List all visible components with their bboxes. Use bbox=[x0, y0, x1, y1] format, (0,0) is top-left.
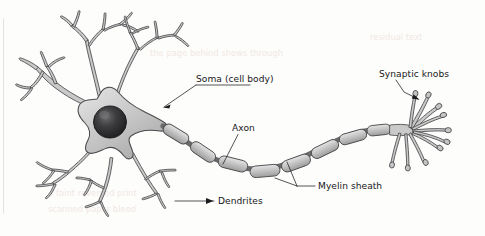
myelin-segment bbox=[367, 124, 392, 137]
ghost-text: faint reversed print bbox=[56, 188, 138, 198]
label-soma: Soma (cell body) bbox=[196, 74, 274, 84]
dendrite-branch bbox=[176, 36, 189, 46]
leader-soma bbox=[164, 85, 250, 107]
nucleus-highlight bbox=[99, 111, 109, 119]
dendrite-branch bbox=[174, 22, 183, 36]
myelin-segment bbox=[280, 152, 312, 173]
dendrite-branch bbox=[88, 28, 104, 46]
label-soma-group: Soma (cell body) bbox=[163, 74, 273, 109]
dendrite-branch bbox=[48, 57, 65, 67]
ghost-text: the page behind shows through bbox=[150, 48, 283, 58]
myelin-segment bbox=[188, 140, 217, 165]
neuron-diagram: the page behind shows through faint reve… bbox=[0, 0, 485, 236]
synaptic-knob bbox=[405, 165, 411, 171]
dendrite-branch bbox=[29, 71, 44, 89]
dendrite-branch bbox=[116, 47, 140, 96]
dendrite-branch bbox=[76, 177, 90, 181]
dendrite-branch bbox=[20, 88, 32, 101]
dendrite-branch bbox=[154, 21, 158, 38]
figure-canvas: the page behind shows through faint reve… bbox=[0, 0, 485, 236]
nucleus bbox=[94, 106, 127, 138]
myelin-segment bbox=[250, 164, 281, 178]
dendrite-branch bbox=[158, 34, 176, 39]
myelin-segment bbox=[217, 155, 249, 174]
synaptic-knob bbox=[389, 162, 395, 169]
ghost-text: residual text bbox=[370, 32, 423, 42]
label-dendrites-group: Dendrites bbox=[175, 196, 263, 206]
dendrite-branch bbox=[19, 58, 38, 70]
terminal-branch bbox=[405, 134, 409, 168]
dendrite-branch bbox=[104, 23, 122, 31]
label-myelin: Myelin sheath bbox=[318, 181, 382, 191]
synaptic-knob bbox=[443, 138, 451, 145]
dendrite-branch bbox=[40, 51, 48, 66]
synaptic-knob bbox=[440, 112, 448, 119]
dendrite-branch bbox=[102, 13, 106, 30]
leader-dendrites-arrowhead bbox=[206, 198, 214, 204]
dendrite-branch bbox=[73, 11, 80, 27]
dendrite-branch bbox=[16, 84, 31, 89]
synaptic-knob bbox=[445, 128, 451, 133]
dendrite-branch bbox=[142, 193, 157, 200]
label-synaptic-knobs-group: Synaptic knobs bbox=[379, 69, 449, 100]
myelin-segment bbox=[310, 138, 341, 161]
dendrite-branch bbox=[36, 162, 52, 171]
label-synaptic-knobs: Synaptic knobs bbox=[379, 69, 449, 79]
dendrite-branch bbox=[85, 38, 101, 98]
dendrite-branch bbox=[160, 169, 177, 172]
dendrite-branch bbox=[71, 25, 88, 42]
axon-with-myelin bbox=[161, 122, 392, 178]
dendrite-branch bbox=[161, 173, 170, 188]
soma bbox=[78, 87, 167, 159]
myelin-segment bbox=[338, 128, 368, 146]
dendrite-branch bbox=[145, 170, 161, 180]
dendrite-branch bbox=[60, 16, 73, 26]
myelin-segment bbox=[161, 122, 191, 146]
dendrite-branch bbox=[157, 194, 166, 209]
label-dendrites: Dendrites bbox=[218, 196, 263, 206]
label-axon: Axon bbox=[232, 123, 255, 133]
axon-terminal-arbor bbox=[389, 90, 451, 171]
dendrite-branch bbox=[45, 185, 56, 199]
dendrite-branch bbox=[36, 183, 54, 187]
terminal-branch bbox=[391, 133, 401, 165]
